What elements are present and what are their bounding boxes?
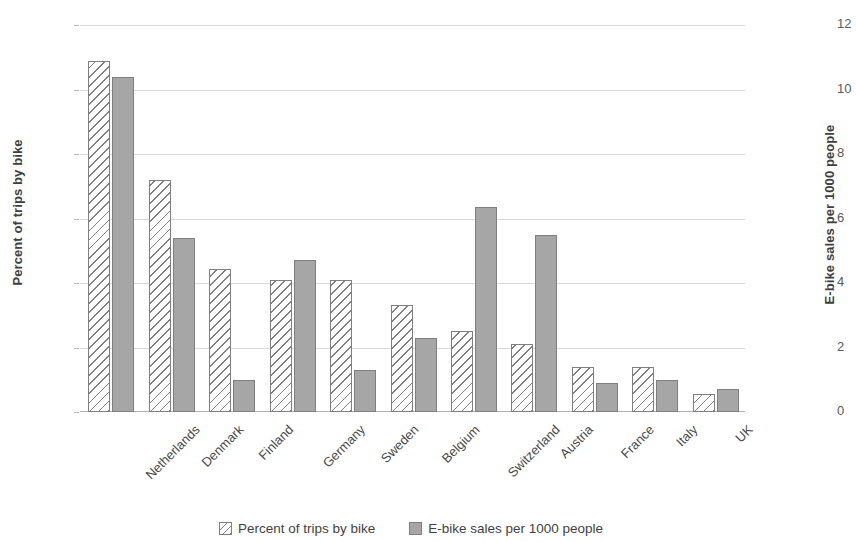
legend-item[interactable]: Percent of trips by bike	[219, 521, 375, 536]
bar-ebike-sales	[475, 207, 497, 412]
x-axis-tick-label: UK	[732, 422, 755, 445]
bar-ebike-sales	[717, 389, 739, 412]
y-axis-left-tick-mark	[74, 154, 79, 155]
bar-group	[149, 25, 195, 412]
bar-group	[88, 25, 134, 412]
bar-ebike-sales	[535, 235, 557, 412]
legend-swatch-hatched	[219, 522, 232, 535]
x-axis-tick-label: Denmark	[198, 422, 246, 470]
bar-ebike-sales	[173, 238, 195, 412]
bar-group	[632, 25, 678, 412]
y-axis-right-tick-label: 4	[837, 275, 856, 288]
x-axis-tick-label: Netherlands	[143, 422, 203, 482]
y-axis-right-tick-label: 0	[837, 404, 856, 417]
y-axis-right-tick-label: 12	[837, 17, 856, 30]
legend-label: Percent of trips by bike	[238, 521, 375, 536]
x-axis-tick-label: Germany	[319, 422, 367, 470]
x-axis-tick-label: Belgium	[438, 422, 482, 466]
bar-ebike-sales	[596, 383, 618, 412]
x-axis-tick-label: France	[618, 422, 657, 461]
bar-percent-trips	[330, 280, 352, 412]
bar-percent-trips	[88, 61, 110, 412]
bar-percent-trips	[270, 280, 292, 412]
bar-ebike-sales	[112, 77, 134, 412]
y-axis-left-tick-mark	[74, 283, 79, 284]
y-axis-right-title: E-bike sales per 1000 people	[822, 100, 837, 330]
bar-percent-trips	[511, 344, 533, 412]
y-axis-left-title: Percent of trips by bike	[10, 133, 25, 293]
y-axis-right-tick-label: 2	[837, 340, 856, 353]
bar-group	[511, 25, 557, 412]
x-axis-tick-label: Sweden	[378, 422, 422, 466]
chart-legend: Percent of trips by bikeE-bike sales per…	[0, 521, 822, 536]
y-axis-left-tick-mark	[74, 25, 79, 26]
x-axis-tick-label: Finland	[256, 422, 297, 463]
x-axis-tick-label: Italy	[673, 422, 700, 449]
plot-area: 0%5%10%15%20%25%30% 024681012 Netherland…	[80, 25, 745, 412]
bar-ebike-sales	[354, 370, 376, 412]
bar-group	[391, 25, 437, 412]
bar-percent-trips	[149, 180, 171, 412]
bar-percent-trips	[572, 367, 594, 412]
y-axis-left-tick-mark	[74, 90, 79, 91]
bar-percent-trips	[209, 269, 231, 412]
bar-percent-trips	[632, 367, 654, 412]
bar-percent-trips	[693, 394, 715, 412]
x-axis-tick-label: Switzerland	[505, 422, 563, 480]
y-axis-left-tick-mark	[74, 348, 79, 349]
legend-label: E-bike sales per 1000 people	[428, 521, 603, 536]
bar-group	[270, 25, 316, 412]
bar-ebike-sales	[415, 338, 437, 412]
y-axis-left-tick-mark	[74, 412, 79, 413]
bar-percent-trips	[451, 331, 473, 412]
legend-swatch-solid	[409, 522, 422, 535]
x-axis-tick-label: Austria	[557, 422, 596, 461]
bar-percent-trips	[391, 305, 413, 412]
bar-group	[330, 25, 376, 412]
y-axis-right-tick-label: 10	[837, 82, 856, 95]
bar-ebike-sales	[294, 260, 316, 412]
y-axis-right-tick-label: 6	[837, 211, 856, 224]
bar-group	[209, 25, 255, 412]
bar-group	[572, 25, 618, 412]
bar-ebike-sales	[233, 380, 255, 412]
legend-item[interactable]: E-bike sales per 1000 people	[409, 521, 603, 536]
bar-group	[693, 25, 739, 412]
y-axis-right-tick-label: 8	[837, 146, 856, 159]
bar-group	[451, 25, 497, 412]
y-axis-left-tick-mark	[74, 219, 79, 220]
bar-ebike-sales	[656, 380, 678, 412]
